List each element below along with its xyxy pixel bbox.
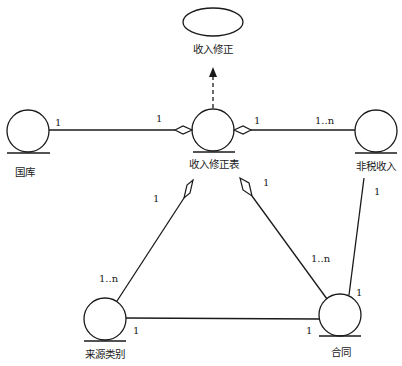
arrowhead-icon	[209, 67, 217, 77]
multiplicity-contract-left: 1	[306, 325, 312, 337]
source-category-label: 来源类别	[85, 348, 125, 360]
aggregation-diamond-icon	[175, 126, 192, 134]
multiplicity-contract-top: 1..n	[311, 253, 330, 265]
revision-table-label: 收入修正表	[189, 158, 239, 170]
edge-revision-table-source	[117, 198, 184, 301]
treasury-entity-circle	[7, 110, 49, 152]
aggregation-diamond-icon	[184, 180, 193, 198]
non-tax-income-label: 非税收入	[356, 160, 396, 172]
non-tax-income-entity-circle	[355, 110, 397, 152]
multiplicity-revision-table-contract-side: 1	[263, 177, 269, 189]
multiplicity-treasury-side: 1	[55, 117, 61, 129]
multiplicity-revision-table-source-side: 1	[153, 193, 159, 205]
multiplicity-revision-table-right: 1	[254, 115, 260, 127]
contract-entity-circle	[319, 294, 361, 336]
aggregation-diamond-icon	[240, 178, 252, 196]
multiplicity-source-top: 1..n	[99, 273, 118, 285]
contract-label: 合同	[331, 346, 351, 358]
revision-table-entity-circle	[192, 109, 234, 151]
source-category-entity-circle	[84, 298, 126, 340]
edge-source-contract	[126, 318, 319, 319]
edge-non-tax-contract	[349, 178, 364, 295]
revision-ellipse	[183, 8, 243, 36]
multiplicity-non-tax-bottom: 1	[374, 186, 380, 198]
revision-label: 收入修正	[193, 43, 233, 55]
treasury-label: 国库	[15, 166, 35, 178]
multiplicity-source-right: 1	[133, 325, 139, 337]
multiplicity-contract-top-right: 1	[356, 287, 362, 299]
aggregation-diamond-icon	[234, 126, 251, 134]
multiplicity-non-tax-side: 1..n	[315, 115, 334, 127]
multiplicity-revision-table-left: 1	[156, 113, 162, 125]
edge-revision-table-contract	[252, 196, 327, 299]
